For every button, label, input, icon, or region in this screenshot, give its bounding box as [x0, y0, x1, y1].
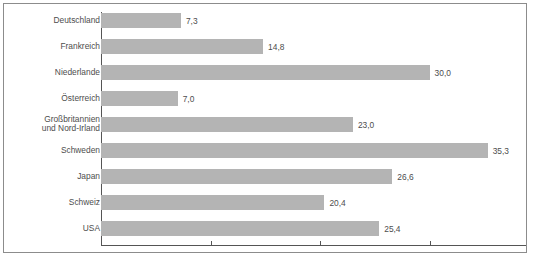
x-axis-tick-1 [211, 241, 212, 246]
bar-row: Japan 26,6 [4, 169, 526, 184]
category-label: Japan [0, 172, 100, 182]
category-label: Deutschland [0, 16, 100, 26]
bar[interactable] [101, 169, 392, 184]
bar-value-label: 7,0 [183, 94, 195, 104]
bar-row: Österreich 7,0 [4, 91, 526, 106]
bar[interactable] [101, 65, 430, 80]
bar-row: USA 25,4 [4, 221, 526, 236]
bar-row: Großbritannien und Nord-Irland 23,0 [4, 117, 526, 132]
category-label: Großbritannien und Nord-Irland [0, 115, 100, 134]
bar-value-label: 25,4 [384, 224, 400, 234]
bar-value-label: 7,3 [186, 16, 198, 26]
bar-chart-plot-area: Deutschland 7,3 Frankreich 14,8 Niederla… [4, 4, 526, 252]
bar-row: Deutschland 7,3 [4, 13, 526, 28]
bar[interactable] [101, 91, 178, 106]
bar-value-label: 14,8 [268, 42, 284, 52]
bar[interactable] [101, 143, 488, 158]
bar-value-label: 23,0 [358, 120, 374, 130]
bar-row: Frankreich 14,8 [4, 39, 526, 54]
bar-value-label: 35,3 [493, 146, 509, 156]
bar-value-label: 20,4 [329, 198, 345, 208]
x-axis-tick-3 [430, 241, 431, 246]
category-label: Niederlande [0, 68, 100, 78]
bar[interactable] [101, 39, 263, 54]
bar[interactable] [101, 13, 181, 28]
category-label: Schweiz [0, 198, 100, 208]
bar-value-label: 30,0 [435, 68, 451, 78]
x-axis-tick-2 [320, 241, 321, 246]
bar[interactable] [101, 221, 379, 236]
bar-row: Schweiz 20,4 [4, 195, 526, 210]
bar[interactable] [101, 117, 353, 132]
bar-row: Niederlande 30,0 [4, 65, 526, 80]
x-axis-tick-0 [101, 241, 102, 246]
chart-frame: Deutschland 7,3 Frankreich 14,8 Niederla… [3, 3, 527, 253]
bar-row: Schweden 35,3 [4, 143, 526, 158]
category-label: Frankreich [0, 42, 100, 52]
bar[interactable] [101, 195, 324, 210]
category-label: USA [0, 224, 100, 234]
bar-value-label: 26,6 [397, 172, 413, 182]
x-axis-line [101, 245, 526, 246]
category-label: Schweden [0, 146, 100, 156]
category-label: Österreich [0, 94, 100, 104]
